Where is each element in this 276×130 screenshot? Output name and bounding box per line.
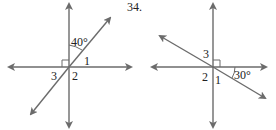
left-right-angle-marker	[62, 60, 69, 67]
left-figure	[9, 4, 131, 127]
right-right-angle-marker	[213, 60, 220, 67]
right-angle-label-3: 3	[203, 48, 209, 60]
diagram-canvas	[0, 0, 276, 130]
right-figure	[152, 4, 266, 127]
left-angle-label-1: 1	[84, 55, 90, 67]
right-angle-value: 30°	[234, 69, 251, 81]
right-angle-label-2: 2	[202, 71, 208, 83]
right-angle-label-1: 1	[215, 74, 221, 86]
left-angle-label-2: 2	[72, 70, 78, 82]
left-angle-value: 40°	[71, 36, 88, 48]
problem-number: 34.	[127, 1, 142, 13]
left-angle-label-3: 3	[51, 70, 57, 82]
